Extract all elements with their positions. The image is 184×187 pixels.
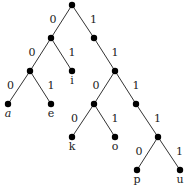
edge-bit-label: 1 [133, 79, 140, 92]
tree-node [91, 101, 97, 107]
tree-node [91, 35, 97, 41]
edge-bit-label: 0 [93, 79, 100, 92]
tree-node [48, 35, 54, 41]
leaf-label: k [69, 140, 76, 153]
edge-bit-label: 0 [29, 46, 36, 59]
leaf-label: p [133, 173, 140, 186]
tree-node [133, 101, 139, 107]
edge-bit-label: 0 [136, 145, 143, 158]
edge-bit-label: 0 [71, 112, 78, 125]
edge-bit-label: 0 [7, 79, 14, 92]
tree-node [155, 134, 161, 140]
edge-bit-label: 0 [50, 13, 57, 26]
tree-node [69, 2, 75, 8]
tree-svg: 01011010101101iaekopu [0, 0, 184, 187]
leaf-label: a [5, 107, 12, 120]
tree-node [112, 68, 118, 74]
edge-bit-label: 1 [176, 145, 183, 158]
tree-node [27, 68, 33, 74]
edge-bit-label: 1 [48, 79, 55, 92]
edge-bit-label: 1 [112, 112, 119, 125]
leaf-label: u [176, 173, 183, 186]
edge-bit-label: 1 [90, 13, 97, 26]
leaf-label: e [48, 107, 55, 120]
trie-diagram: 01011010101101iaekopu [0, 0, 184, 187]
edge-bit-label: 1 [69, 46, 76, 59]
leaf-label: o [112, 140, 119, 153]
leaf-label: i [70, 74, 74, 87]
edge-bit-label: 1 [112, 46, 119, 59]
edge-bit-label: 1 [154, 112, 161, 125]
